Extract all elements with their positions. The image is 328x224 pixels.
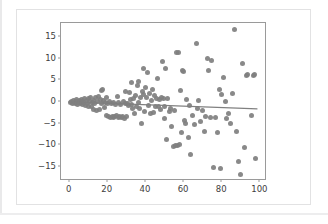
scatter-point: [240, 61, 245, 66]
scatter-point: [226, 111, 231, 116]
scatter-point: [169, 124, 174, 129]
y-axis-tick-label: −15: [38, 162, 56, 171]
scatter-point: [249, 113, 254, 118]
y-axis-tick-mark: [58, 165, 61, 166]
scatter-point: [192, 122, 197, 127]
y-axis-tick-label: 15: [45, 32, 56, 41]
scatter-point: [143, 85, 148, 90]
scatter-point: [127, 90, 132, 95]
scatter-point: [115, 94, 120, 99]
scatter-point: [129, 80, 134, 85]
plot-data-area: [61, 23, 265, 179]
y-axis-tick-mark: [58, 79, 61, 80]
scatter-point: [162, 116, 167, 121]
y-axis-tick-mark: [58, 100, 61, 101]
scatter-point: [200, 108, 205, 113]
scatter-point: [252, 72, 257, 77]
x-axis-tick-mark: [259, 179, 260, 182]
scatter-point: [219, 92, 224, 97]
scatter-point: [163, 66, 168, 71]
scatter-point: [223, 99, 228, 104]
scatter-point: [160, 59, 165, 64]
y-axis-tick-mark: [58, 35, 61, 36]
y-axis-tick-label: 5: [51, 75, 56, 84]
scatter-point: [181, 69, 186, 74]
scatter-point: [178, 88, 183, 93]
scatter-point: [136, 79, 141, 84]
outer-bottom-edge: [0, 213, 328, 224]
scatter-point: [218, 166, 223, 171]
scatter-point: [234, 129, 239, 134]
scatter-point: [136, 100, 141, 105]
scatter-point: [177, 142, 182, 147]
scatter-point: [238, 172, 243, 177]
scatter-point: [209, 58, 214, 63]
scatter-point: [165, 96, 170, 101]
scatter-point: [179, 130, 184, 135]
scatter-point: [188, 152, 193, 157]
scatter-plot-figure: −15−10−5051015020406080100: [16, 9, 311, 205]
x-axis-tick-mark: [144, 179, 145, 182]
scatter-point: [213, 115, 218, 120]
scatter-point: [187, 103, 192, 108]
x-axis-tick-label: 80: [216, 185, 227, 194]
x-axis-tick-mark: [183, 179, 184, 182]
scatter-point: [100, 87, 105, 92]
x-axis-tick-mark: [221, 179, 222, 182]
scatter-point: [202, 129, 207, 134]
scatter-point: [135, 83, 140, 88]
scatter-point: [224, 116, 229, 121]
scatter-point: [146, 103, 151, 108]
scatter-point: [132, 111, 137, 116]
x-axis-tick-label: 20: [101, 185, 112, 194]
x-axis-tick-mark: [106, 179, 107, 182]
scatter-point: [97, 107, 102, 112]
x-axis-tick-label: 100: [251, 185, 267, 194]
scatter-point: [172, 108, 177, 113]
scatter-point: [242, 145, 247, 150]
scatter-point: [198, 119, 203, 124]
scatter-point: [221, 75, 226, 80]
scatter-point: [176, 50, 181, 55]
scatter-point: [236, 159, 241, 164]
scatter-point: [162, 104, 167, 109]
scatter-point: [151, 110, 156, 115]
scatter-point: [211, 165, 216, 170]
scatter-point: [245, 72, 250, 77]
scatter-point: [228, 121, 233, 126]
scatter-point: [253, 156, 258, 161]
y-axis-tick-label: 0: [51, 97, 56, 106]
scatter-point: [232, 27, 237, 32]
scatter-point: [150, 87, 155, 92]
scatter-point: [230, 91, 235, 96]
scatter-point: [217, 87, 222, 92]
y-axis-tick-label: 10: [45, 53, 56, 62]
x-axis-tick-label: 0: [66, 185, 71, 194]
scatter-point: [183, 121, 188, 126]
x-axis-tick-label: 40: [140, 185, 151, 194]
plot-axes: −15−10−5051015020406080100: [60, 22, 266, 180]
y-axis-tick-label: −10: [38, 140, 56, 149]
scatter-point: [124, 114, 129, 119]
x-axis-tick-mark: [68, 179, 69, 182]
y-axis-tick-mark: [58, 144, 61, 145]
x-axis-tick-label: 60: [178, 185, 189, 194]
y-axis-tick-mark: [58, 57, 61, 58]
scatter-point: [194, 41, 199, 46]
scatter-point: [215, 130, 220, 135]
scatter-point: [196, 98, 201, 103]
scatter-point: [190, 113, 195, 118]
scatter-point: [206, 68, 211, 73]
scatter-point: [186, 135, 191, 140]
y-axis-tick-mark: [58, 122, 61, 123]
scatter-point: [184, 97, 189, 102]
scatter-point: [155, 76, 160, 81]
scatter-point: [145, 70, 150, 75]
scatter-point: [164, 137, 169, 142]
y-axis-tick-label: −5: [43, 118, 56, 127]
scatter-point: [139, 121, 144, 126]
scatter-point: [142, 109, 147, 114]
